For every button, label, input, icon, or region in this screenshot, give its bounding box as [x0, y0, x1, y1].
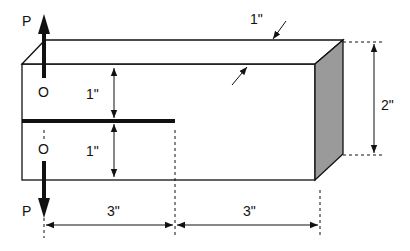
- side-face: [315, 40, 343, 180]
- total-height-dimension: 2": [343, 42, 394, 155]
- load-label-bottom: P: [22, 203, 31, 219]
- lower-arm-height-label: 1": [86, 143, 99, 159]
- upper-arm-height-label: 1": [86, 86, 99, 102]
- beam-body: [22, 40, 343, 180]
- ligament-length-label: 3": [243, 203, 256, 219]
- diagram-canvas: P O O P 1" 1" 1" 2" 3" 3": [0, 0, 410, 251]
- thickness-arrow-top: [273, 21, 286, 39]
- load-label-top: P: [22, 13, 31, 29]
- total-height-label: 2": [381, 97, 394, 113]
- point-label-bottom: O: [38, 141, 49, 157]
- thickness-label: 1": [250, 11, 263, 27]
- point-label-top: O: [38, 84, 49, 100]
- arrow-down-icon: [38, 198, 50, 218]
- top-face: [22, 40, 343, 64]
- arrow-up-icon: [38, 14, 50, 34]
- crack-length-label: 3": [107, 203, 120, 219]
